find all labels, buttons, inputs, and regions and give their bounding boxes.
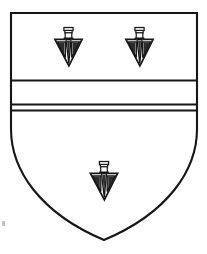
shield-drawing <box>0 0 207 254</box>
image-canvas: Heraldic escutcheon with three pheons an… <box>0 0 207 254</box>
shield-outline <box>11 13 197 240</box>
scan-speck-artifact <box>2 221 5 226</box>
